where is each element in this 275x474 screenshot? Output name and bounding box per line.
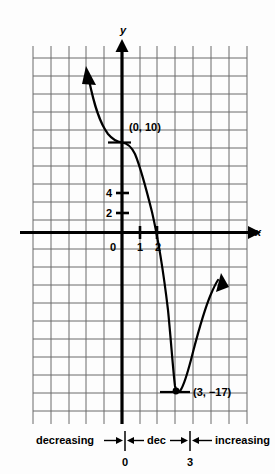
minimum-point-dot: [173, 388, 180, 395]
interval-label-decreasing: decreasing: [36, 434, 94, 446]
minimum-label: (3, −17): [193, 386, 232, 398]
interval-label-dec: dec: [147, 434, 166, 446]
graph-figure: x y 4 2 1 2 0 (0, 10) (3, −17) | --> dec…: [0, 0, 275, 474]
y-tick-label-4: 4: [106, 187, 113, 199]
y-tick-label-2: 2: [106, 207, 112, 219]
y-intercept-label: (0, 10): [129, 121, 161, 133]
x-axis-label: x: [254, 226, 262, 238]
interval-divider-label-0: 0: [122, 456, 128, 468]
canvas-background: [0, 0, 275, 474]
origin-label: 0: [110, 241, 116, 253]
interval-divider-label-3: 3: [187, 456, 193, 468]
interval-label-increasing: increasing: [215, 434, 270, 446]
y-axis-label: y: [119, 24, 127, 36]
graph-canvas: x y 4 2 1 2 0 (0, 10) (3, −17) | --> dec…: [0, 0, 275, 474]
x-tick-label-1: 1: [137, 241, 143, 253]
